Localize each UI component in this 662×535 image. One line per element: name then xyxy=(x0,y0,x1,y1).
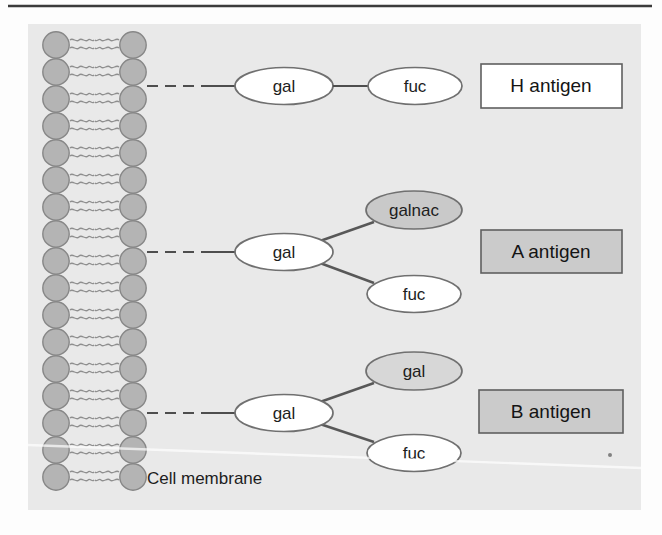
figure-blood-group-antigens: gal fuc H antigen gal galnac fuc A antig… xyxy=(0,0,662,535)
lipid-head xyxy=(43,383,69,409)
b-antigen-box-label: B antigen xyxy=(511,401,591,422)
lipid-head xyxy=(43,194,69,220)
lipid-head xyxy=(120,167,146,193)
lipid-head xyxy=(120,383,146,409)
lipid-head xyxy=(43,32,69,58)
a-gal-label: gal xyxy=(273,243,296,262)
lipid-head xyxy=(120,32,146,58)
a-fuc-label: fuc xyxy=(403,285,426,304)
lipid-head xyxy=(120,464,146,490)
lipid-head xyxy=(43,329,69,355)
h-fuc-label: fuc xyxy=(404,77,427,96)
lipid-head xyxy=(120,329,146,355)
lipid-head xyxy=(120,194,146,220)
lipid-head xyxy=(43,86,69,112)
lipid-head xyxy=(120,113,146,139)
lipid-head xyxy=(120,275,146,301)
scan-speck xyxy=(608,453,612,457)
b-gal-gray-label: gal xyxy=(403,362,426,381)
lipid-head xyxy=(43,275,69,301)
a-antigen-box-label: A antigen xyxy=(511,241,590,262)
antigen-diagram: gal fuc H antigen gal galnac fuc A antig… xyxy=(0,0,662,535)
lipid-head xyxy=(120,302,146,328)
lipid-head xyxy=(120,410,146,436)
lipid-head xyxy=(120,248,146,274)
lipid-head xyxy=(43,437,69,463)
h-gal-label: gal xyxy=(273,77,296,96)
lipid-head xyxy=(43,248,69,274)
lipid-head xyxy=(43,167,69,193)
lipid-head xyxy=(120,356,146,382)
lipid-head xyxy=(43,59,69,85)
lipid-head xyxy=(43,410,69,436)
h-antigen-box-label: H antigen xyxy=(510,75,591,96)
lipid-head xyxy=(43,464,69,490)
a-galnac-label: galnac xyxy=(389,201,440,220)
lipid-head xyxy=(120,86,146,112)
lipid-head xyxy=(120,59,146,85)
lipid-head xyxy=(43,221,69,247)
lipid-head xyxy=(43,302,69,328)
lipid-head xyxy=(120,140,146,166)
lipid-head xyxy=(120,221,146,247)
cell-membrane-label: Cell membrane xyxy=(147,469,262,488)
lipid-head xyxy=(43,140,69,166)
b-gal-label: gal xyxy=(273,404,296,423)
lipid-head xyxy=(43,113,69,139)
lipid-head xyxy=(43,356,69,382)
